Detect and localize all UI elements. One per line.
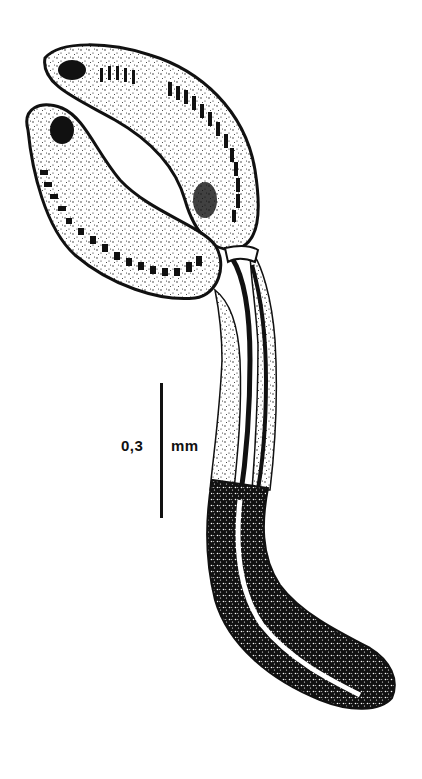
scale-bar-value: 0,3: [121, 437, 143, 454]
specimen-illustration: [0, 0, 422, 779]
scale-bar: [160, 383, 163, 518]
lobe-duct-junction: [225, 246, 258, 262]
scale-bar-unit: mm: [171, 437, 199, 454]
duct-upper: [210, 250, 276, 500]
duct-lower: [207, 480, 395, 709]
